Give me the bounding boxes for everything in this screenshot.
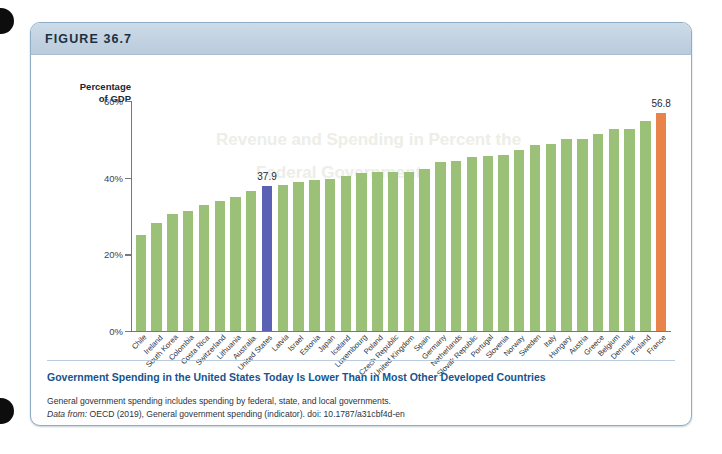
caption-divider <box>47 360 675 361</box>
bar-slot <box>228 101 244 331</box>
bar-slot <box>322 101 338 331</box>
figure-number-label: FIGURE 36.7 <box>45 32 132 46</box>
page-binding-dot-bottom <box>0 398 14 424</box>
plot-area: 0%20%40%60% 37.956.8 <box>131 101 671 331</box>
x-axis-line <box>131 331 671 332</box>
bar-slot <box>275 101 291 331</box>
bar-slot <box>543 101 559 331</box>
bar-spain[interactable] <box>419 169 429 331</box>
bar-ireland[interactable] <box>151 223 161 331</box>
bar-slot <box>590 101 606 331</box>
bar-slot <box>306 101 322 331</box>
bar-slot <box>448 101 464 331</box>
bar-italy[interactable] <box>546 144 556 331</box>
bar-slot <box>133 101 149 331</box>
bar-finland[interactable] <box>640 121 650 331</box>
bar-slot <box>511 101 527 331</box>
y-tick-mark <box>125 254 131 255</box>
caption-title: Government Spending in the United States… <box>47 370 675 384</box>
bar-value-label: 37.9 <box>257 171 276 182</box>
bar-slot <box>622 101 638 331</box>
bar-slovak-republic[interactable] <box>467 157 477 331</box>
bar-denmark[interactable] <box>624 129 634 331</box>
page-binding-dot-top <box>0 8 14 34</box>
bar-slot <box>243 101 259 331</box>
bar-austria[interactable] <box>577 139 587 331</box>
bar-value-label: 56.8 <box>651 98 670 109</box>
y-tick-mark <box>125 101 131 102</box>
bar-norway[interactable] <box>514 150 524 331</box>
bar-slot <box>574 101 590 331</box>
bar-poland[interactable] <box>372 172 382 331</box>
bar-slot <box>417 101 433 331</box>
caption-note: General government spending includes spe… <box>47 395 675 408</box>
bar-luxembourg[interactable] <box>356 173 366 331</box>
bar-israel[interactable] <box>293 182 303 331</box>
bar-slot <box>606 101 622 331</box>
y-tick-label: 20% <box>104 249 123 260</box>
bar-hungary[interactable] <box>561 139 571 331</box>
y-tick-label: 0% <box>109 326 123 337</box>
bar-australia[interactable] <box>246 191 256 331</box>
bar-slot <box>354 101 370 331</box>
bar-slot <box>385 101 401 331</box>
bar-slot <box>165 101 181 331</box>
bar-slot <box>196 101 212 331</box>
bar-slot <box>638 101 654 331</box>
caption-block: Government Spending in the United States… <box>31 360 691 420</box>
caption-source: Data from: OECD (2019), General governme… <box>47 408 675 421</box>
y-axis-title-line-1: Percentage <box>39 81 131 93</box>
bar-sweden[interactable] <box>530 145 540 331</box>
bar-slot: 37.9 <box>259 101 275 331</box>
bar-slot: 56.8 <box>653 101 669 331</box>
bar-germany[interactable] <box>435 162 445 331</box>
chart-region: Revenue and Spending in Percent the Fede… <box>31 55 691 360</box>
bar-lithuania[interactable] <box>230 197 240 331</box>
bar-estonia[interactable] <box>309 180 319 331</box>
bar-united-states[interactable]: 37.9 <box>262 186 272 331</box>
bar-slot <box>527 101 543 331</box>
bar-slot <box>180 101 196 331</box>
bar-czech-republic[interactable] <box>388 172 398 331</box>
bar-netherlands[interactable] <box>451 161 461 331</box>
bar-greece[interactable] <box>593 134 603 331</box>
y-tick-mark <box>125 178 131 179</box>
bar-slot <box>496 101 512 331</box>
bar-france[interactable]: 56.8 <box>656 113 666 331</box>
bar-united-kingdom[interactable] <box>404 172 414 331</box>
bar-slovenia[interactable] <box>498 155 508 331</box>
bar-slot <box>149 101 165 331</box>
bar-slot <box>559 101 575 331</box>
bar-costa-rica[interactable] <box>199 205 209 332</box>
figure-card: FIGURE 36.7 Revenue and Spending in Perc… <box>30 22 692 426</box>
bar-slot <box>212 101 228 331</box>
caption-source-prefix: Data from: <box>47 409 87 419</box>
bar-latvia[interactable] <box>278 185 288 331</box>
bar-portugal[interactable] <box>483 156 493 331</box>
bar-slot <box>338 101 354 331</box>
y-axis-line <box>131 101 132 331</box>
bar-slot <box>291 101 307 331</box>
bar-colombia[interactable] <box>183 211 193 331</box>
bar-iceland[interactable] <box>341 176 351 331</box>
bar-belgium[interactable] <box>609 129 619 331</box>
bar-series: 37.956.8 <box>133 101 669 331</box>
bar-slot <box>369 101 385 331</box>
figure-header: FIGURE 36.7 <box>31 23 691 55</box>
bar-chile[interactable] <box>136 235 146 331</box>
bar-japan[interactable] <box>325 179 335 331</box>
y-tick-mark <box>125 331 131 332</box>
bar-slot <box>464 101 480 331</box>
x-label-latvia: Latvia <box>270 333 291 354</box>
y-tick-label: 60% <box>104 96 123 107</box>
bar-slot <box>480 101 496 331</box>
bar-slot <box>433 101 449 331</box>
bar-slot <box>401 101 417 331</box>
bar-south-korea[interactable] <box>167 214 177 331</box>
caption-source-rest: OECD (2019), General government spending… <box>87 409 405 419</box>
bar-switzerland[interactable] <box>215 201 225 331</box>
y-tick-label: 40% <box>104 172 123 183</box>
